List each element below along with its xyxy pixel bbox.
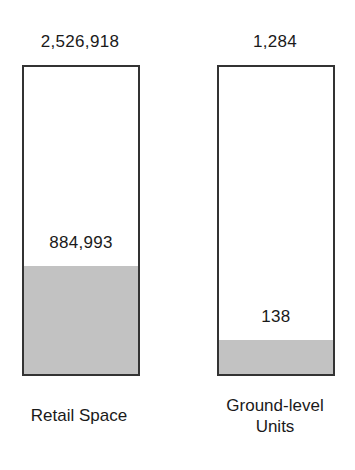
retail-part-label: 884,993 <box>24 233 138 253</box>
retail-bar-fill <box>24 266 138 374</box>
units-category-line2: Units <box>200 416 350 437</box>
units-category-label: Ground-level Units <box>200 395 350 437</box>
units-total-label: 1,284 <box>205 32 345 52</box>
units-category-line1: Ground-level <box>200 395 350 416</box>
units-bar: 138 <box>217 65 335 376</box>
retail-category-label: Retail Space <box>4 405 154 426</box>
retail-total-label: 2,526,918 <box>10 32 150 52</box>
units-part-label: 138 <box>219 307 333 327</box>
units-bar-fill <box>219 340 333 374</box>
retail-bar: 884,993 <box>22 65 140 376</box>
